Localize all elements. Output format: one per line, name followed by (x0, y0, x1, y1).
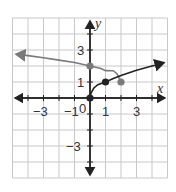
y-axis-label: y (93, 16, 102, 31)
x-tick-label: −1 (64, 104, 79, 119)
y-tick-label: 1 (77, 75, 84, 90)
point-black-1-1 (102, 78, 109, 85)
x-tick-label: 1 (102, 104, 109, 119)
x-axis-label: x (156, 81, 164, 96)
x-tick-label: −3 (33, 104, 48, 119)
y-tick-label: 3 (77, 43, 84, 58)
point-gray-0-2 (86, 62, 93, 69)
x-tick-label: 3 (133, 104, 140, 119)
y-tick-label: −3 (66, 139, 81, 154)
graph: y x 0 −3 −1 1 3 3 1 −3 (0, 0, 176, 192)
origin-label: 0 (79, 101, 86, 116)
point-black-0-0 (86, 94, 93, 101)
point-gray-2-1 (117, 78, 124, 85)
